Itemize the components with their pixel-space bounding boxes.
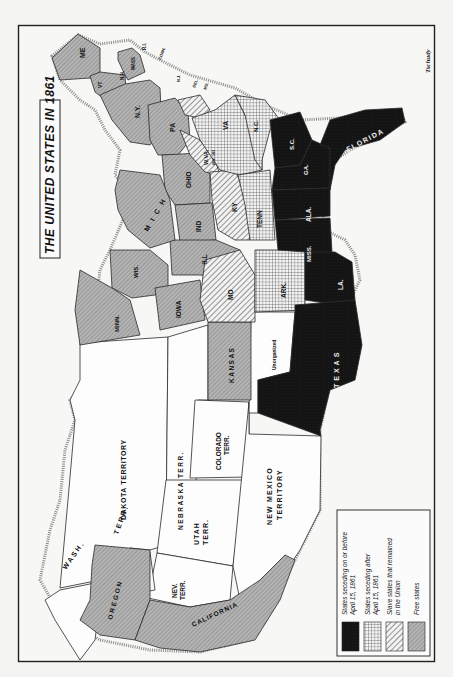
label-ala: ALA.	[305, 207, 312, 222]
label-nebraska: NEBRASKA TERR.	[177, 451, 184, 530]
map-title: THE UNITED STATES IN 1861	[40, 75, 60, 258]
region-utah-territory[interactable]	[157, 480, 244, 566]
label-ill: ILL	[201, 254, 208, 264]
label-ri: R.I.	[142, 43, 147, 50]
label-sc: S.C.	[289, 138, 295, 150]
region-arkansas[interactable]	[255, 250, 305, 312]
label-miss: MISS.	[306, 245, 312, 262]
region-mississippi[interactable]	[275, 218, 332, 252]
label-nev-1: NEV.	[171, 583, 178, 598]
region-louisiana[interactable]	[305, 252, 355, 303]
label-nj: N.J.	[176, 75, 181, 82]
us-1861-map: ME VT N.H. MASS R.I. CONN. N.Y. N.J. DEL…	[0, 0, 453, 677]
legend: States seceding on or before April 15, 1…	[337, 510, 430, 656]
label-colorado-2: TERR.	[223, 435, 230, 455]
label-newmexico-2: TERRITORY	[276, 469, 283, 520]
region-missouri[interactable]	[200, 250, 255, 322]
label-ky: KY	[231, 202, 238, 212]
label-wva: W.VA.	[203, 149, 209, 165]
legend-swatch-slave-union	[386, 622, 403, 651]
label-unorganized: Unorganized	[271, 340, 277, 370]
label-mo: MO	[227, 290, 234, 300]
legend-label-3a: Slave states that remained	[386, 538, 393, 615]
label-tenn: TENN	[256, 210, 263, 228]
legend-swatch-free	[408, 622, 425, 651]
map-signature: Tschudy	[424, 48, 432, 73]
legend-label-2a: States seceding after	[364, 553, 372, 615]
legend-label-4a: Free states	[413, 582, 420, 615]
label-kansas: KANSAS	[228, 347, 235, 383]
label-wva-note: ADM. 1863	[212, 149, 216, 165]
legend-label-2b: April 15, 1861	[372, 575, 380, 616]
label-nh: N.H.	[120, 71, 125, 80]
label-me: ME	[79, 47, 86, 58]
label-ga: GA.	[303, 164, 309, 175]
label-minn: MINN.	[114, 315, 120, 332]
label-utah-2: TERR.	[202, 519, 209, 545]
map-title-text: THE UNITED STATES IN 1861	[43, 75, 57, 254]
label-ind: IND	[195, 221, 202, 233]
label-la: LA.	[337, 279, 344, 290]
label-nc: N.C.	[253, 120, 259, 132]
legend-label-1b: April 15, 1861	[349, 575, 357, 616]
label-pa: PA	[169, 123, 176, 132]
region-alabama[interactable]	[272, 188, 330, 220]
label-colorado-1: COLORADO	[215, 432, 222, 470]
label-newmexico-1: NEW MEXICO	[266, 467, 273, 525]
label-ohio: OHIO	[185, 171, 192, 188]
label-mass: MASS	[131, 57, 136, 70]
label-texas: TEXAS	[333, 350, 340, 388]
label-vt: VT	[97, 82, 103, 88]
label-ny: N.Y.	[134, 105, 141, 118]
label-ark: ARK.	[280, 282, 287, 298]
label-nev-2: TERR.	[179, 580, 186, 600]
legend-label-1a: States seceding on or before	[341, 532, 349, 615]
legend-swatch-seceded-after	[364, 622, 381, 651]
label-va: VA	[222, 121, 229, 130]
label-iowa: IOWA	[175, 300, 182, 318]
label-wis: WIS.	[133, 265, 139, 278]
label-utah-1: UTAH	[193, 522, 200, 545]
legend-swatch-seceded-before	[342, 622, 359, 651]
legend-label-3b: in the Union	[394, 580, 401, 615]
